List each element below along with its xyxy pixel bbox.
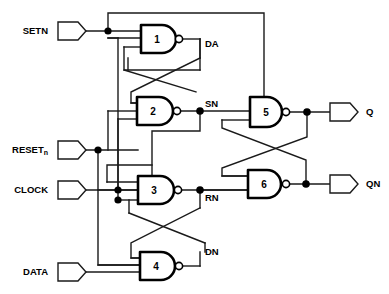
net-label-sn: SN xyxy=(205,98,218,109)
input-port-resetn[interactable] xyxy=(58,141,86,159)
junction-sn-node xyxy=(196,107,204,115)
gate-1[interactable]: 1 xyxy=(141,25,183,53)
input-port-setn[interactable] xyxy=(58,22,86,40)
gate-6-bubble xyxy=(282,180,289,187)
input-port-clock[interactable] xyxy=(58,181,86,199)
output-label-q: Q xyxy=(366,106,373,117)
input-label-resetn-base: RESET xyxy=(12,144,44,155)
input-port-data[interactable] xyxy=(58,263,86,281)
output-port-q[interactable] xyxy=(330,103,358,121)
wire-layer xyxy=(85,13,330,272)
gate-5-bubble xyxy=(282,108,289,115)
input-label-setn: SETN xyxy=(23,25,48,36)
gate-1-number: 1 xyxy=(154,34,160,45)
output-port-group xyxy=(330,103,358,193)
net-label-da: DA xyxy=(205,38,219,49)
junction-qn-node xyxy=(302,180,310,188)
gate-5[interactable]: 5 xyxy=(250,97,290,127)
gate-4-number: 4 xyxy=(153,261,159,272)
gate-1-bubble xyxy=(175,35,182,42)
wire-cross-upper-left xyxy=(124,70,196,92)
gate-5-number: 5 xyxy=(263,107,269,118)
input-label-data: DATA xyxy=(23,266,48,277)
wire-resetn-bus xyxy=(98,150,140,265)
junction-clock-tap1 xyxy=(114,186,121,193)
junction-setn-tap xyxy=(104,27,111,34)
gate-3[interactable]: 3 xyxy=(138,176,182,204)
input-port-group xyxy=(58,22,86,281)
junction-resetn-tap xyxy=(94,146,101,153)
gate-6-number: 6 xyxy=(261,179,267,190)
gate-4[interactable]: 4 xyxy=(140,252,183,280)
gate-3-number: 3 xyxy=(151,185,157,196)
junction-q-node xyxy=(303,108,311,116)
gate-2-bubble xyxy=(173,107,180,114)
output-port-qn[interactable] xyxy=(330,175,358,193)
input-label-clock: CLOCK xyxy=(14,184,48,195)
input-label-resetn-subscript: n xyxy=(44,149,48,156)
gate-3-bubble xyxy=(174,186,181,193)
net-label-dn: DN xyxy=(205,246,219,257)
input-label-resetn: RESETn xyxy=(12,144,48,156)
input-label-resetn-group: RESETn xyxy=(12,144,48,156)
output-label-qn: QN xyxy=(366,178,380,189)
junction-rn-node xyxy=(196,186,204,194)
wire-rn-cross xyxy=(131,208,200,258)
gate-4-bubble xyxy=(175,262,182,269)
net-label-rn: RN xyxy=(205,192,219,203)
gate-2[interactable]: 2 xyxy=(137,97,181,125)
gate-6[interactable]: 6 xyxy=(248,170,290,198)
circuit-canvas: 1 2 3 4 5 6 xyxy=(0,0,389,294)
gate-2-number: 2 xyxy=(150,106,156,117)
junction-clock-tap2 xyxy=(114,196,121,203)
logic-diagram: 1 2 3 4 5 6 xyxy=(0,0,389,294)
